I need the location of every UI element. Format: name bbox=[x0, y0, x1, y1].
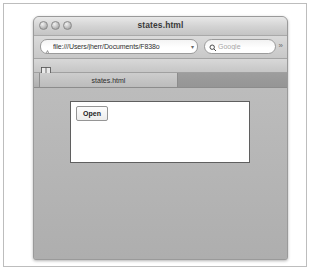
address-bar[interactable]: file:///Users/jherr/Documents/F838o ▾ bbox=[40, 39, 198, 54]
search-placeholder-text: Google bbox=[218, 43, 241, 50]
tab-states-html[interactable]: states.html bbox=[40, 73, 178, 87]
address-bar-text: file:///Users/jherr/Documents/F838o bbox=[53, 43, 190, 50]
browser-toolbar: file:///Users/jherr/Documents/F838o ▾ Go… bbox=[34, 36, 287, 59]
toolbar-overflow-icon[interactable]: » bbox=[279, 42, 283, 50]
tab-label: states.html bbox=[92, 77, 126, 84]
tab-bar: states.html bbox=[34, 73, 287, 88]
search-input[interactable]: Google bbox=[204, 39, 276, 54]
page-favicon-icon bbox=[44, 43, 51, 50]
page-content: Open bbox=[34, 88, 287, 260]
open-panel: Open bbox=[70, 101, 250, 163]
window-titlebar: states.html bbox=[34, 17, 287, 36]
open-button[interactable]: Open bbox=[76, 106, 108, 121]
browser-window: states.html file:///Users/jherr/Document… bbox=[33, 16, 288, 260]
tab-empty-area[interactable] bbox=[178, 73, 287, 87]
figure-frame: states.html file:///Users/jherr/Document… bbox=[3, 3, 307, 267]
search-icon bbox=[209, 39, 217, 54]
bookmarks-bar bbox=[34, 59, 287, 73]
window-title: states.html bbox=[34, 20, 287, 30]
chevron-down-icon[interactable]: ▾ bbox=[191, 43, 194, 50]
